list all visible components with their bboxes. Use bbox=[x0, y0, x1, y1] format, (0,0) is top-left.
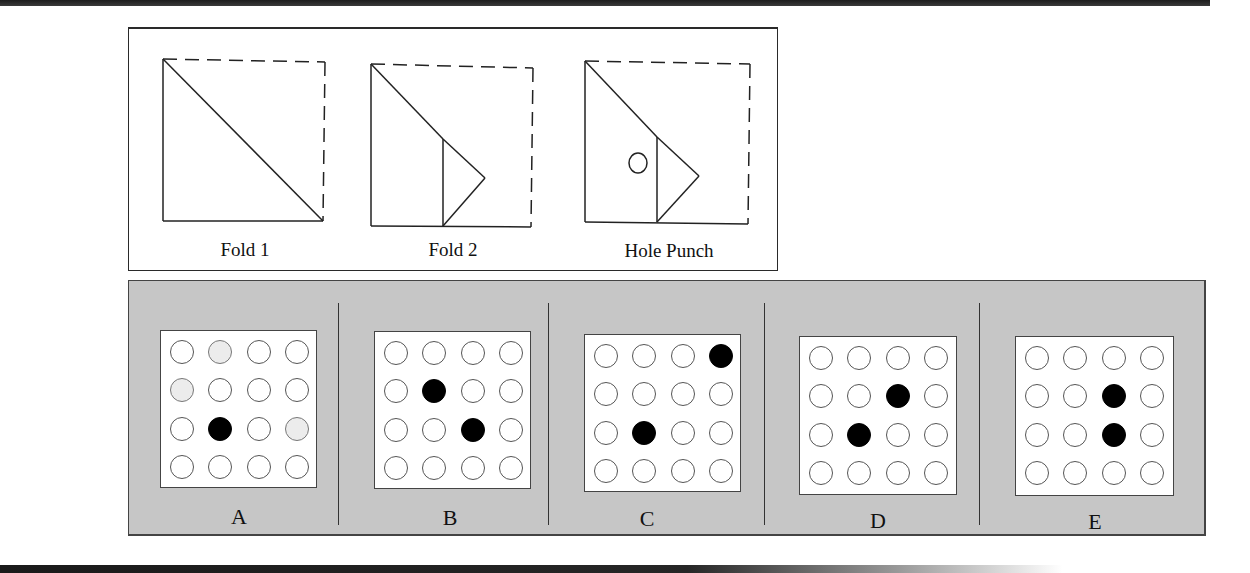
option-b-card[interactable] bbox=[374, 331, 531, 489]
hole-circle-icon bbox=[594, 459, 618, 483]
hole-circle-icon bbox=[671, 459, 695, 483]
option-e-card[interactable] bbox=[1015, 336, 1174, 496]
option-e-label[interactable]: E bbox=[1065, 509, 1125, 535]
hole-circle-icon bbox=[499, 456, 523, 480]
hole-circle-icon bbox=[632, 459, 656, 483]
option-a-card[interactable] bbox=[160, 330, 317, 488]
hole-circle-icon bbox=[594, 421, 618, 445]
hole-circle-icon bbox=[1063, 423, 1087, 447]
hole-circle-icon bbox=[924, 461, 948, 485]
hole-circle-icon bbox=[809, 461, 833, 485]
hole-circle-icon bbox=[499, 341, 523, 365]
hole-circle-icon bbox=[384, 456, 408, 480]
hole-circle-icon bbox=[1063, 384, 1087, 408]
hole-circle-icon bbox=[594, 344, 618, 368]
option-divider bbox=[548, 303, 549, 525]
option-d-label[interactable]: D bbox=[848, 508, 908, 534]
hole-circle-icon bbox=[208, 340, 232, 364]
hole-circle-icon bbox=[1025, 461, 1049, 485]
hole-circle-icon bbox=[1140, 384, 1164, 408]
hole-circle-icon bbox=[461, 341, 485, 365]
hole-circle-icon bbox=[924, 346, 948, 370]
hole-punch-label: Hole Punch bbox=[589, 240, 749, 262]
option-divider bbox=[979, 303, 980, 525]
punched-hole-icon bbox=[1102, 384, 1126, 408]
hole-circle-icon bbox=[924, 384, 948, 408]
hole-circle-icon bbox=[285, 378, 309, 402]
hole-circle-icon bbox=[285, 340, 309, 364]
hole-circle-icon bbox=[422, 456, 446, 480]
hole-circle-icon bbox=[632, 344, 656, 368]
hole-circle-icon bbox=[1102, 346, 1126, 370]
punched-hole-icon bbox=[461, 418, 485, 442]
hole-circle-icon bbox=[384, 379, 408, 403]
hole-circle-icon bbox=[1063, 346, 1087, 370]
hole-circle-icon bbox=[247, 340, 271, 364]
hole-circle-icon bbox=[632, 382, 656, 406]
hole-circle-icon bbox=[847, 461, 871, 485]
hole-circle-icon bbox=[1140, 461, 1164, 485]
hole-circle-icon bbox=[208, 378, 232, 402]
hole-circle-icon bbox=[170, 455, 194, 479]
fold-1-diagram bbox=[163, 59, 325, 221]
hole-circle-icon bbox=[461, 456, 485, 480]
hole-circle-icon bbox=[671, 421, 695, 445]
hole-circle-icon bbox=[461, 379, 485, 403]
punched-hole-icon bbox=[632, 421, 656, 445]
hole-circle-icon bbox=[247, 378, 271, 402]
fold-2-label: Fold 2 bbox=[373, 239, 533, 261]
hole-circle-icon bbox=[170, 340, 194, 364]
hole-circle-icon bbox=[886, 461, 910, 485]
hole-circle-icon bbox=[709, 421, 733, 445]
hole-circle-icon bbox=[671, 344, 695, 368]
hole-circle-icon bbox=[1025, 384, 1049, 408]
option-b-label[interactable]: B bbox=[420, 505, 480, 531]
hole-circle-icon bbox=[1025, 346, 1049, 370]
answer-options-panel: A B C D E bbox=[128, 280, 1206, 536]
hole-circle-icon bbox=[499, 418, 523, 442]
option-c-label[interactable]: C bbox=[617, 506, 677, 532]
hole-circle-icon bbox=[1025, 423, 1049, 447]
hole-circle-icon bbox=[247, 417, 271, 441]
punched-hole-icon bbox=[208, 417, 232, 441]
bottom-edge-bar bbox=[0, 565, 1250, 573]
hole-circle-icon bbox=[671, 382, 695, 406]
punched-hole-icon bbox=[422, 379, 446, 403]
fold-1-label: Fold 1 bbox=[165, 239, 325, 261]
hole-circle-icon bbox=[384, 418, 408, 442]
option-a-label[interactable]: A bbox=[209, 504, 269, 530]
hole-circle-icon bbox=[709, 382, 733, 406]
hole-circle-icon bbox=[1140, 346, 1164, 370]
hole-circle-icon bbox=[384, 341, 408, 365]
hole-circle-icon bbox=[847, 346, 871, 370]
hole-circle-icon bbox=[594, 382, 618, 406]
hole-circle-icon bbox=[886, 346, 910, 370]
hole-circle-icon bbox=[809, 346, 833, 370]
hole-circle-icon bbox=[247, 455, 271, 479]
option-divider bbox=[764, 303, 765, 525]
hole-circle-icon bbox=[809, 384, 833, 408]
hole-circle-icon bbox=[924, 423, 948, 447]
hole-circle-icon bbox=[847, 384, 871, 408]
hole-circle-icon bbox=[170, 417, 194, 441]
punched-hole-icon bbox=[886, 384, 910, 408]
hole-circle-icon bbox=[170, 378, 194, 402]
fold-diagrams bbox=[129, 29, 779, 273]
hole-circle-icon bbox=[285, 455, 309, 479]
hole-circle-icon bbox=[809, 423, 833, 447]
hole-circle-icon bbox=[208, 455, 232, 479]
hole-circle-icon bbox=[709, 459, 733, 483]
hole-circle-icon bbox=[285, 417, 309, 441]
hole-punch-diagram bbox=[585, 61, 750, 224]
fold-2-diagram bbox=[371, 64, 533, 227]
option-divider bbox=[338, 303, 339, 525]
punched-hole-icon bbox=[709, 344, 733, 368]
hole-circle-icon bbox=[1140, 423, 1164, 447]
hole-circle-icon bbox=[1102, 461, 1126, 485]
option-c-card[interactable] bbox=[584, 334, 741, 492]
hole-circle-icon bbox=[499, 379, 523, 403]
top-edge-bar bbox=[0, 0, 1210, 6]
option-d-card[interactable] bbox=[799, 336, 957, 495]
punched-hole-icon bbox=[1102, 423, 1126, 447]
hole-circle-icon bbox=[1063, 461, 1087, 485]
